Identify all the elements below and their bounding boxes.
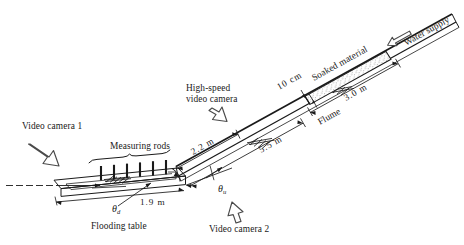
high-speed-camera-label-line1: High-speed [186,83,230,94]
angle-theta-u-label: θu [218,183,226,195]
high-speed-camera-label-line2: video camera [186,94,237,105]
dimension-flume-lower [191,118,306,188]
video-camera-2-label: Video camera 2 [209,224,269,235]
arrow-down-right-icon [29,144,60,166]
theta-u-subscript: u [223,188,226,195]
measuring-rods-brace [89,150,170,163]
video-camera-1-label: Video camera 1 [22,121,82,132]
measuring-rods-label: Measuring rods [110,141,170,152]
theta-d-subscript: d [117,208,120,215]
flooding-table-label: Flooding table [91,221,147,232]
dimension-label-table-length: 1.9 m [140,197,165,207]
horizontal-datum-line [6,184,100,188]
angle-theta-d-label: θd [112,203,120,215]
arrow-up-icon [228,202,243,223]
arrow-down-icon [209,107,227,122]
